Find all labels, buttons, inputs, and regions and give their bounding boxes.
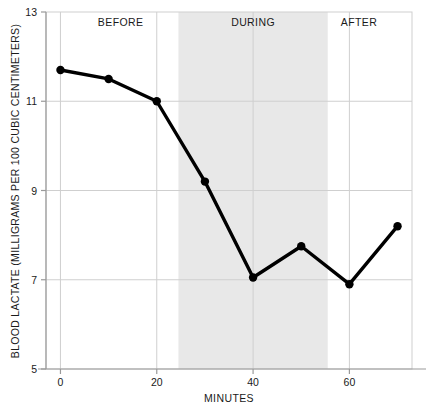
data-point	[393, 222, 401, 230]
x-tick-label-60: 60	[344, 376, 356, 388]
y-tick-label-7: 7	[31, 274, 37, 286]
phase-label-before: BEFORE	[98, 16, 144, 28]
data-point	[297, 242, 305, 250]
data-point	[56, 66, 64, 74]
data-point	[153, 97, 161, 105]
data-point	[104, 75, 112, 83]
y-axis: 5791113	[25, 6, 46, 375]
line-chart: 5791113 0204060 BEFOREDURINGAFTER MINUTE…	[0, 0, 427, 409]
x-axis-title: MINUTES	[204, 392, 254, 404]
phase-label-after: AFTER	[341, 16, 377, 28]
data-point	[345, 280, 353, 288]
y-tick-label-13: 13	[25, 6, 37, 18]
data-point	[249, 273, 257, 281]
y-tick-label-9: 9	[31, 185, 37, 197]
chart-figure: 5791113 0204060 BEFOREDURINGAFTER MINUTE…	[0, 0, 427, 409]
data-point	[201, 177, 209, 185]
x-tick-label-0: 0	[58, 376, 64, 388]
x-tick-label-40: 40	[247, 376, 259, 388]
y-tick-label-5: 5	[31, 363, 37, 375]
y-tick-label-11: 11	[26, 95, 37, 107]
x-tick-label-20: 20	[151, 376, 163, 388]
phase-label-during: DURING	[231, 16, 275, 28]
x-axis: 0204060	[38, 369, 426, 388]
y-axis-title: BLOOD LACTATE (MILLIGRAMS PER 100 CUBIC …	[9, 24, 21, 358]
